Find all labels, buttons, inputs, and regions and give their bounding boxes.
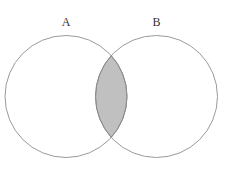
venn-diagram: A B	[0, 0, 235, 174]
set-b-label: B	[152, 15, 160, 29]
set-a-label: A	[62, 15, 71, 29]
intersection-region-a-b	[96, 36, 218, 158]
